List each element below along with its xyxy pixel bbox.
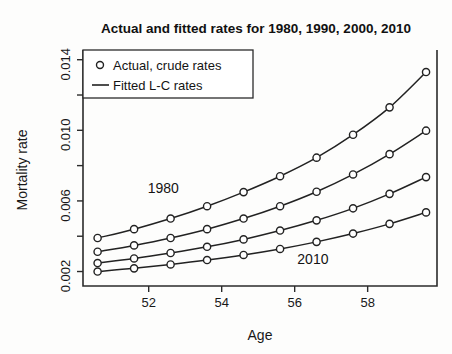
mortality-rate-chart: Actual and fitted rates for 1980, 1990, … [0, 0, 452, 354]
data-point-marker [386, 104, 393, 111]
data-point-marker [240, 236, 247, 243]
y-tick-label: 0.002 [58, 260, 73, 293]
data-point-marker [313, 154, 320, 161]
data-point-marker [349, 131, 356, 138]
x-tick-label: 52 [141, 295, 155, 310]
data-point-marker [167, 234, 174, 241]
data-point-marker [349, 171, 356, 178]
y-tick-label: 0.014 [58, 48, 73, 81]
legend-marker-circle-icon [97, 62, 104, 69]
x-axis-label: Age [248, 327, 273, 343]
data-point-marker [203, 203, 210, 210]
y-tick-label: 0.006 [58, 189, 73, 222]
data-point-marker [130, 226, 137, 233]
data-point-marker [313, 217, 320, 224]
x-tick-label: 58 [360, 295, 374, 310]
data-point-marker [276, 203, 283, 210]
data-point-marker [167, 249, 174, 256]
data-point-marker [422, 209, 429, 216]
data-point-marker [349, 205, 356, 212]
data-point-marker [203, 256, 210, 263]
y-tick-label: 0.010 [58, 119, 73, 152]
series-annotation-2010: 2010 [297, 251, 328, 267]
data-point-marker [422, 127, 429, 134]
series-annotation-1980: 1980 [148, 180, 179, 196]
data-point-marker [130, 265, 137, 272]
x-tick-label: 54 [214, 295, 228, 310]
figure-root: Actual and fitted rates for 1980, 1990, … [0, 0, 452, 354]
legend-label-fitted: Fitted L-C rates [113, 78, 203, 93]
data-point-marker [240, 251, 247, 258]
data-point-marker [313, 238, 320, 245]
data-point-marker [240, 188, 247, 195]
data-point-marker [94, 259, 101, 266]
y-axis-label: Mortality rate [14, 129, 30, 210]
data-point-marker [276, 245, 283, 252]
data-point-marker [94, 234, 101, 241]
data-point-marker [130, 255, 137, 262]
data-point-marker [240, 215, 247, 222]
data-point-marker [94, 268, 101, 275]
data-point-marker [203, 243, 210, 250]
data-point-marker [386, 220, 393, 227]
data-point-marker [422, 173, 429, 180]
data-point-marker [276, 173, 283, 180]
data-point-marker [349, 230, 356, 237]
data-point-marker [422, 68, 429, 75]
x-tick-label: 56 [287, 295, 301, 310]
data-point-marker [313, 188, 320, 195]
data-point-marker [167, 215, 174, 222]
chart-legend: Actual, crude rates Fitted L-C rates [83, 50, 253, 98]
data-point-marker [167, 261, 174, 268]
chart-title: Actual and fitted rates for 1980, 1990, … [101, 21, 411, 36]
data-point-marker [276, 227, 283, 234]
data-point-marker [386, 190, 393, 197]
data-point-marker [130, 242, 137, 249]
data-point-marker [94, 248, 101, 255]
data-point-marker [203, 226, 210, 233]
legend-label-actual: Actual, crude rates [113, 58, 222, 73]
data-point-marker [386, 151, 393, 158]
